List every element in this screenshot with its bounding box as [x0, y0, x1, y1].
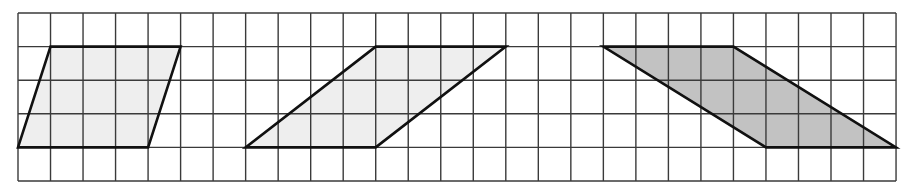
parallelogram-1-fill: [18, 47, 181, 148]
grid-figure: [0, 0, 915, 195]
parallelogram-shapes: [18, 47, 896, 148]
parallelogram-3-fill: [603, 47, 896, 148]
